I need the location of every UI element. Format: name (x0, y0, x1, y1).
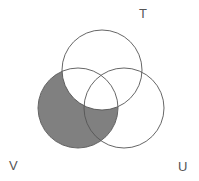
set-label-v: V (9, 159, 18, 172)
set-label-u: U (178, 160, 187, 173)
venn-diagram-figure: T V U (0, 0, 199, 181)
set-label-t: T (139, 7, 147, 20)
venn-diagram-canvas (0, 0, 199, 181)
